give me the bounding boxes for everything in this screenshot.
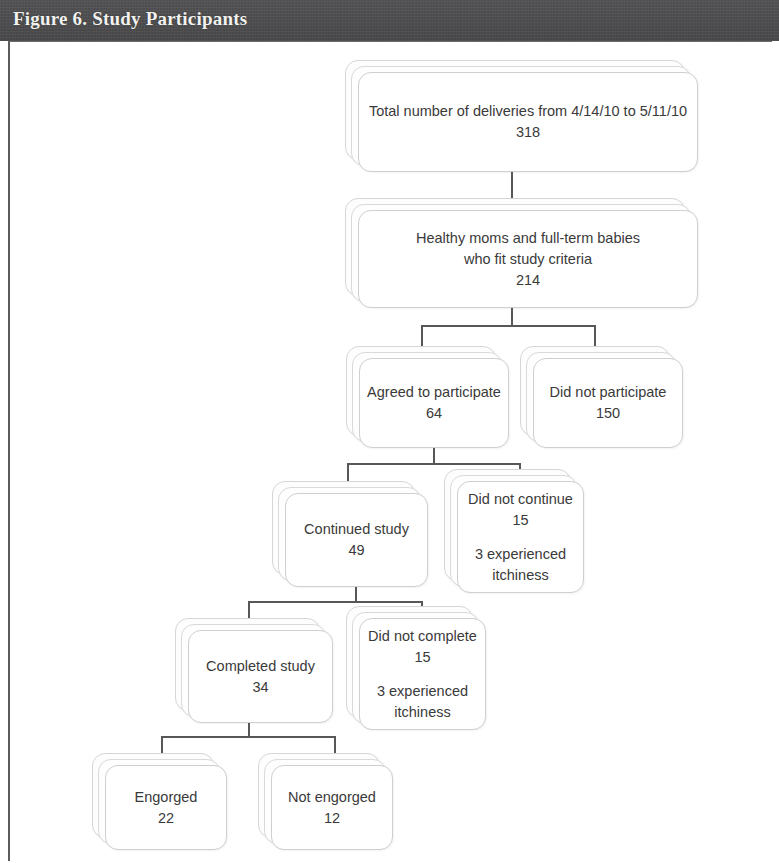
node-card: Did not participate 150: [533, 358, 683, 448]
node-card: Completed study 34: [188, 630, 333, 723]
node-value: 12: [324, 808, 340, 829]
node-label: Agreed to participate: [367, 382, 501, 403]
node-value: 34: [252, 677, 268, 698]
node-value: 15: [512, 510, 528, 531]
flow-node-eligible: Healthy moms and full-term babies who fi…: [358, 210, 698, 308]
connector-agreed-stem: [433, 448, 435, 464]
connector-to-agreed: [421, 325, 423, 348]
flow-node-did-not-continue: Did not continue 15 3 experienced itchin…: [457, 481, 584, 593]
flow-node-not-engorged: Not engorged 12: [271, 765, 393, 850]
node-label: Did not participate: [550, 382, 667, 403]
node-label-line-1: Healthy moms and full-term babies: [416, 228, 640, 249]
node-note-line-2: itchiness: [394, 702, 450, 723]
node-value: 318: [516, 122, 540, 143]
node-value: 49: [348, 540, 364, 561]
node-label-line-2: who fit study criteria: [464, 249, 592, 270]
node-label: Not engorged: [288, 787, 376, 808]
connector-completed-bar: [161, 736, 336, 738]
flow-node-completed-study: Completed study 34: [188, 630, 333, 723]
connector-eligible-bar: [421, 325, 596, 327]
node-note-line-2: itchiness: [492, 565, 548, 586]
flow-node-engorged: Engorged 22: [105, 765, 227, 850]
connector-to-did-not-participate: [594, 325, 596, 348]
node-card: Continued study 49: [285, 493, 428, 587]
node-label: Engorged: [135, 787, 198, 808]
connector-completed-stem: [248, 723, 250, 737]
node-card: Agreed to participate 64: [359, 358, 509, 448]
flow-node-continued-study: Continued study 49: [285, 493, 428, 587]
figure-caption-bar: Figure 6. Study Participants: [0, 0, 779, 41]
node-value: 64: [426, 403, 442, 424]
connector-continued-bar: [248, 601, 423, 603]
node-card: Not engorged 12: [271, 765, 393, 850]
connector-continued-stem: [355, 587, 357, 602]
node-note-line-1: 3 experienced: [475, 544, 566, 565]
flow-node-agreed-to-participate: Agreed to participate 64: [359, 358, 509, 448]
node-card: Did not continue 15 3 experienced itchin…: [457, 481, 584, 593]
flow-node-did-not-complete: Did not complete 15 3 experienced itchin…: [359, 618, 486, 730]
node-label: Did not continue: [468, 489, 573, 510]
connector-agreed-bar: [347, 463, 521, 465]
node-label: Did not complete: [368, 626, 477, 647]
node-note-line-1: 3 experienced: [377, 681, 468, 702]
node-label: Continued study: [304, 519, 409, 540]
node-card: Did not complete 15 3 experienced itchin…: [359, 618, 486, 730]
flow-node-did-not-participate: Did not participate 150: [533, 358, 683, 448]
node-value: 15: [414, 647, 430, 668]
node-label: Completed study: [206, 656, 315, 677]
connector-eligible-stem: [511, 308, 513, 326]
node-value: 22: [158, 808, 174, 829]
node-card: Engorged 22: [105, 765, 227, 850]
node-card: Healthy moms and full-term babies who fi…: [358, 210, 698, 308]
flow-node-total-deliveries: Total number of deliveries from 4/14/10 …: [358, 72, 698, 172]
figure-caption-text: Figure 6. Study Participants: [13, 8, 247, 30]
node-label: Total number of deliveries from 4/14/10 …: [369, 101, 687, 122]
node-value: 150: [596, 403, 620, 424]
node-value: 214: [516, 270, 540, 291]
node-card: Total number of deliveries from 4/14/10 …: [358, 72, 698, 172]
